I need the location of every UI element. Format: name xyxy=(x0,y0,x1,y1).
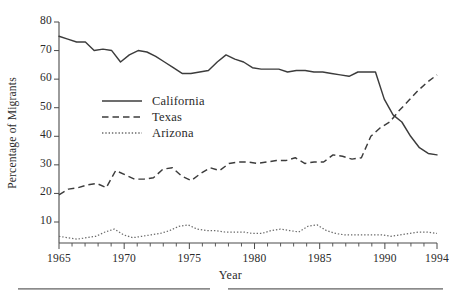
x-tick-label: 1990 xyxy=(360,252,410,264)
legend-label-arizona: Arizona xyxy=(152,125,194,141)
x-axis-title: Year xyxy=(0,268,461,283)
y-axis-title: Percentage of Migrants xyxy=(6,77,19,189)
figure-container: Percentage of Migrants 1020304050607080 … xyxy=(0,0,461,298)
y-tick-label: 60 xyxy=(26,71,52,83)
x-tick-label: 1970 xyxy=(99,252,149,264)
chart-legend: California Texas Arizona xyxy=(101,93,205,141)
x-tick-label: 1994 xyxy=(412,252,461,264)
legend-label-texas: Texas xyxy=(152,109,182,125)
legend-item-texas: Texas xyxy=(101,109,205,125)
legend-swatch-solid xyxy=(101,96,143,106)
footer-divider-right xyxy=(228,288,443,290)
x-tick-label: 1985 xyxy=(295,252,345,264)
footer-divider xyxy=(0,288,461,290)
legend-item-arizona: Arizona xyxy=(101,125,205,141)
legend-label-california: California xyxy=(152,93,205,109)
y-tick-label: 50 xyxy=(26,100,52,112)
x-axis-major-ticks xyxy=(59,243,437,249)
footer-divider-left xyxy=(18,288,210,290)
y-tick-label: 20 xyxy=(26,185,52,197)
y-tick-label: 10 xyxy=(26,214,52,226)
y-tick-label: 30 xyxy=(26,157,52,169)
legend-item-california: California xyxy=(101,93,205,109)
x-tick-label: 1980 xyxy=(230,252,280,264)
y-tick-label: 80 xyxy=(26,14,52,26)
y-tick-label: 40 xyxy=(26,128,52,140)
x-tick-label: 1965 xyxy=(34,252,84,264)
series-line-arizona xyxy=(59,225,437,239)
y-tick-label: 70 xyxy=(26,43,52,55)
legend-swatch-dashed xyxy=(101,112,143,122)
y-axis-ticks xyxy=(54,22,59,222)
legend-swatch-dotted xyxy=(101,128,143,138)
x-tick-label: 1975 xyxy=(164,252,214,264)
